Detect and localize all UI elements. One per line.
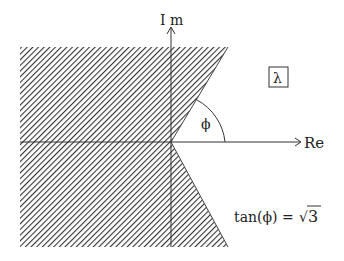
plane-label: λ [273, 70, 282, 86]
equation-lhs: tan(ϕ) = [234, 209, 298, 225]
real-axis-label: Re [304, 134, 324, 152]
angle-phi-label: ϕ [201, 116, 211, 132]
sqrt-symbol-icon: √ [299, 209, 308, 225]
hatched-region [20, 47, 228, 247]
imaginary-axis-label: I m [160, 12, 183, 28]
sqrt-radicand: 3 [308, 207, 318, 226]
stability-region-diagram: Re I m ϕ λ tan(ϕ) = √ 3 [0, 0, 344, 261]
